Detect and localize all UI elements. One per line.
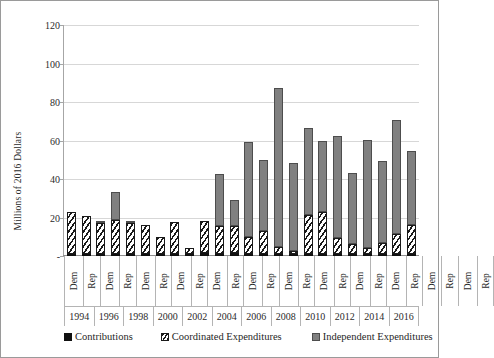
x-axis-party-label: Dem (141, 272, 151, 290)
x-axis-year-label: 2002 (183, 307, 213, 326)
stacked-bar[interactable] (185, 248, 194, 256)
bar-slot (79, 25, 94, 256)
x-axis-party-cell: Rep (407, 256, 423, 306)
bar-slot (330, 25, 345, 256)
stacked-bar[interactable] (304, 128, 313, 256)
bar-segment-coordinated (333, 238, 342, 254)
x-axis-party-cell: Rep (478, 256, 494, 306)
bar-segment-coordinated (259, 231, 268, 254)
x-axis-party-label: Rep (338, 273, 348, 288)
stacked-bar[interactable] (156, 237, 165, 256)
x-axis-party-label: Dem (212, 272, 222, 290)
y-axis-title: Millions of 2016 Dollars (7, 101, 27, 261)
legend-swatch-icon (64, 333, 72, 341)
legend-item[interactable]: Coordinated Expenditures (161, 331, 282, 342)
bar-segment-independent (215, 174, 224, 225)
x-axis-party-label: Rep (87, 273, 97, 288)
x-axis-party-cell: Dem (459, 256, 478, 306)
bar-slot (360, 25, 375, 256)
bar-segment-coordinated (67, 212, 76, 254)
bar-slot (375, 25, 390, 256)
bar-slot (390, 25, 405, 256)
stacked-bar[interactable] (126, 221, 135, 256)
stacked-bar[interactable] (96, 221, 105, 256)
bar-segment-independent (348, 173, 357, 244)
x-axis-year-label: 2004 (213, 307, 243, 326)
x-axis-party-label: Dem (320, 272, 330, 290)
stacked-bar[interactable] (378, 161, 387, 256)
bar-segment-coordinated (304, 215, 313, 254)
stacked-bar[interactable] (392, 120, 401, 256)
stacked-bar[interactable] (259, 160, 268, 256)
bar-slot (345, 25, 360, 256)
x-axis-party-label: Rep (481, 273, 491, 288)
y-tick-label: 120 (45, 20, 60, 31)
bar-slot (94, 25, 109, 256)
x-axis-party-cell: Rep (263, 256, 279, 306)
bar-slot (212, 25, 227, 256)
bar-slot (286, 25, 301, 256)
bar-slot (123, 25, 138, 256)
legend-swatch-icon (161, 333, 169, 341)
x-axis-year-label: 2006 (242, 307, 272, 326)
stacked-bar[interactable] (82, 216, 91, 256)
legend-item[interactable]: Independent Expenditures (312, 331, 433, 342)
y-tick-label: 20 (50, 212, 60, 223)
legend-item[interactable]: Contributions (64, 331, 133, 342)
x-axis-year-label: 1996 (95, 307, 125, 326)
x-axis-party-label: Dem (427, 272, 437, 290)
bar-slot (168, 25, 183, 256)
bar-segment-independent (274, 88, 283, 247)
y-tick-label: 40 (50, 174, 60, 185)
x-axis-year-label: 2016 (390, 307, 420, 326)
bar-segment-coordinated (274, 247, 283, 255)
x-axis-party-label: Dem (177, 272, 187, 290)
y-axis-title-text: Millions of 2016 Dollars (12, 131, 22, 230)
bar-slot (242, 25, 257, 256)
x-axis-party-label: Rep (194, 273, 204, 288)
x-axis-party-cell: Rep (156, 256, 172, 306)
bar-slot (271, 25, 286, 256)
x-axis-party-cell: Dem (101, 256, 120, 306)
stacked-bar[interactable] (200, 221, 209, 256)
bar-segment-coordinated (215, 226, 224, 254)
stacked-bar[interactable] (348, 173, 357, 256)
stacked-bar[interactable] (67, 212, 76, 256)
bar-segment-coordinated (126, 223, 135, 254)
stacked-bar[interactable] (363, 140, 372, 256)
x-axis-party-label: Rep (302, 273, 312, 288)
x-axis-party-cell: Rep (228, 256, 244, 306)
x-axis-party-cell: Dem (172, 256, 191, 306)
x-axis-labels: DemRepDemRepDemRepDemRepDemRepDemRepDemR… (64, 256, 419, 326)
stacked-bar[interactable] (407, 151, 416, 256)
bar-segment-coordinated (96, 223, 105, 254)
stacked-bar[interactable] (170, 222, 179, 256)
bar-segment-independent (244, 142, 253, 237)
stacked-bar[interactable] (230, 200, 239, 256)
x-axis-party-cell: Dem (137, 256, 156, 306)
x-axis-party-cell: Dem (280, 256, 299, 306)
stacked-bar[interactable] (318, 141, 327, 256)
y-tick-label: 80 (50, 97, 60, 108)
bar-slot (316, 25, 331, 256)
x-axis-party-cell: Rep (120, 256, 136, 306)
bar-segment-coordinated (170, 222, 179, 254)
stacked-bar[interactable] (274, 88, 283, 256)
stacked-bar[interactable] (244, 142, 253, 256)
x-axis-party-cell: Rep (192, 256, 208, 306)
stacked-bar[interactable] (333, 136, 342, 256)
x-axis-year-label: 2000 (154, 307, 184, 326)
stacked-bar[interactable] (289, 163, 298, 256)
stacked-bar[interactable] (141, 225, 150, 256)
legend-swatch-icon (312, 333, 320, 341)
x-axis-party-label: Dem (355, 272, 365, 290)
bar-segment-coordinated (156, 237, 165, 254)
bar-slot (108, 25, 123, 256)
stacked-bar[interactable] (111, 192, 120, 256)
bar-segment-independent (111, 192, 120, 220)
x-axis-party-cell: Dem (208, 256, 227, 306)
x-axis-party-label: Dem (105, 272, 115, 290)
x-axis-party-label: Dem (391, 272, 401, 290)
stacked-bar[interactable] (215, 174, 224, 256)
